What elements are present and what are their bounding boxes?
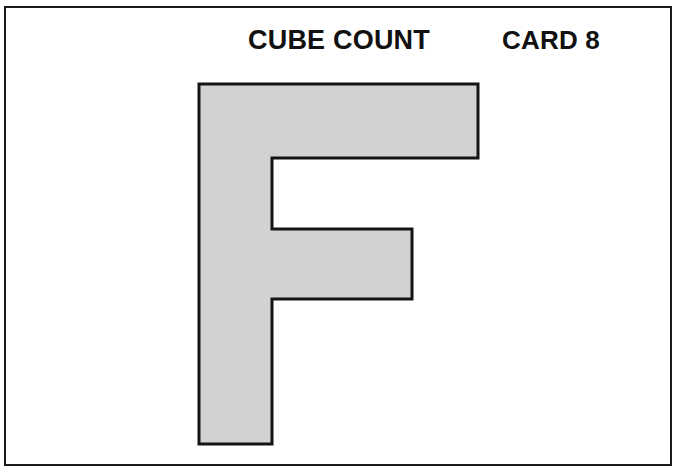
f-shape-polygon [199, 84, 478, 444]
figure-area [0, 0, 678, 474]
cube-count-card: CUBE COUNT CARD 8 [0, 0, 678, 474]
f-shape-figure [0, 0, 678, 474]
